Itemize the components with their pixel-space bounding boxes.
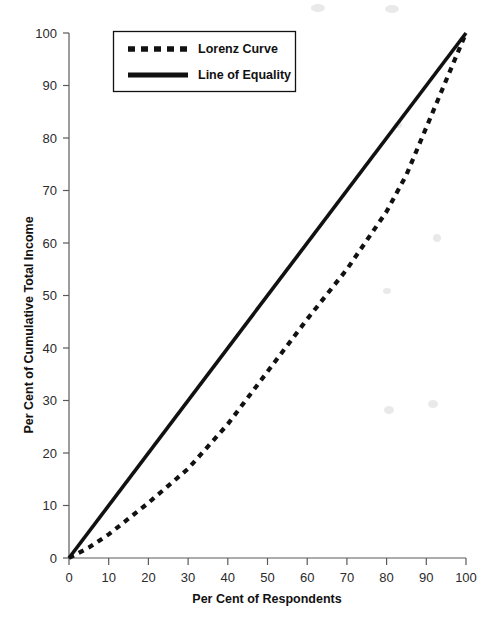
legend-label-lorenz-curve: Lorenz Curve	[198, 42, 278, 56]
y-tick-label: 90	[43, 78, 57, 93]
x-tick-label: 100	[455, 570, 477, 585]
x-tick-label: 80	[379, 570, 393, 585]
y-tick-label: 80	[43, 131, 57, 146]
y-tick-label: 100	[35, 26, 57, 41]
chart-canvas: 0102030405060708090100 01020304050607080…	[0, 0, 493, 630]
x-tick-label: 90	[419, 570, 433, 585]
x-tick-label: 40	[221, 570, 235, 585]
x-tick-label: 50	[260, 570, 274, 585]
y-tick-label: 20	[43, 446, 57, 461]
y-tick-label: 10	[43, 498, 57, 513]
x-tick-label: 0	[65, 570, 72, 585]
legend[interactable]: Lorenz Curve Line of Equality	[114, 32, 296, 92]
y-tick-label: 60	[43, 236, 57, 251]
y-tick-label: 0	[50, 551, 57, 566]
y-tick-label: 70	[43, 183, 57, 198]
x-tick-label: 70	[340, 570, 354, 585]
x-tick-label: 60	[300, 570, 314, 585]
y-axis-title: Per Cent of Cumulative Total Income	[22, 216, 36, 433]
legend-label-line-of-equality: Line of Equality	[198, 68, 291, 82]
legend-box	[114, 32, 296, 92]
lorenz-curve-chart: 0102030405060708090100 01020304050607080…	[0, 0, 493, 630]
y-tick-label: 30	[43, 393, 57, 408]
x-tick-label: 10	[101, 570, 115, 585]
y-tick-label: 40	[43, 341, 57, 356]
x-tick-label: 20	[141, 570, 155, 585]
y-tick-label: 50	[43, 288, 57, 303]
x-tick-label: 30	[181, 570, 195, 585]
x-axis-title: Per Cent of Respondents	[192, 592, 341, 606]
